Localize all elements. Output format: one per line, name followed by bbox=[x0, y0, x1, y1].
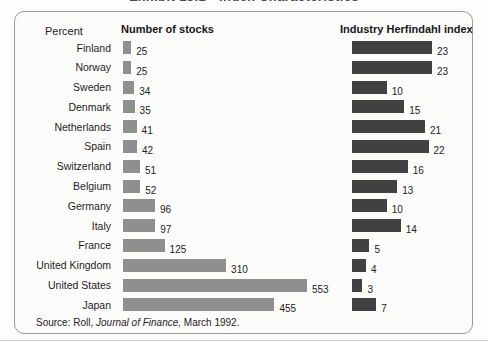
herfindahl-value: 3 bbox=[367, 284, 373, 295]
table-row: Denmark 35 15 bbox=[15, 97, 472, 117]
country-label: United States bbox=[15, 276, 111, 292]
herfindahl-bar bbox=[352, 160, 408, 173]
herfindahl-bar bbox=[352, 259, 366, 272]
stocks-value: 42 bbox=[142, 145, 153, 156]
stocks-value: 41 bbox=[142, 125, 153, 136]
country-label: Netherlands bbox=[15, 117, 111, 133]
herfindahl-bar-cell: 10 bbox=[340, 196, 403, 215]
stocks-bar-cell: 52 bbox=[111, 177, 340, 196]
herfindahl-bar-cell: 22 bbox=[340, 137, 445, 156]
stocks-value: 553 bbox=[312, 284, 329, 295]
herfindahl-bar bbox=[352, 180, 397, 193]
exhibit-title-text: Exhibit 13.1 • Index Characteristics bbox=[0, 0, 488, 4]
herfindahl-bar bbox=[352, 61, 432, 74]
table-row: United States 553 3 bbox=[15, 276, 472, 296]
source-note: Source: Roll, Journal of Finance, March … bbox=[36, 317, 239, 328]
source-prefix: Source: Roll, bbox=[36, 317, 96, 328]
herfindahl-value: 10 bbox=[392, 86, 403, 97]
country-label: Switzerland bbox=[15, 157, 111, 173]
herfindahl-bar bbox=[352, 298, 376, 311]
stocks-bar-cell: 41 bbox=[111, 117, 340, 136]
stocks-bar-cell: 125 bbox=[111, 236, 340, 255]
bar-chart-rows: Finland 25 23 Norway 25 23 Sweden 34 10 bbox=[15, 38, 472, 315]
herfindahl-bar-cell: 16 bbox=[340, 157, 424, 176]
stocks-value: 125 bbox=[170, 244, 187, 255]
country-label: United Kingdom bbox=[15, 256, 111, 272]
stocks-bar-cell: 25 bbox=[111, 58, 340, 77]
table-row: United Kingdom 310 4 bbox=[15, 256, 472, 276]
table-row: Belgium 52 13 bbox=[15, 177, 472, 197]
source-journal: Journal of Finance, bbox=[96, 317, 181, 328]
herfindahl-value: 16 bbox=[413, 165, 424, 176]
stocks-bar bbox=[123, 279, 307, 292]
country-label: Denmark bbox=[15, 97, 111, 113]
table-row: Japan 455 7 bbox=[15, 295, 472, 315]
stocks-bar bbox=[123, 160, 140, 173]
herfindahl-value: 4 bbox=[371, 264, 377, 275]
herfindahl-bar bbox=[352, 120, 425, 133]
herfindahl-bar-cell: 3 bbox=[340, 276, 373, 295]
stocks-bar bbox=[123, 61, 131, 74]
country-label: Norway bbox=[15, 58, 111, 74]
stocks-bar bbox=[123, 239, 165, 252]
stocks-bar bbox=[123, 120, 137, 133]
herfindahl-bar bbox=[352, 199, 387, 212]
stocks-bar bbox=[123, 140, 137, 153]
herfindahl-bar bbox=[352, 81, 387, 94]
stocks-bar-cell: 34 bbox=[111, 78, 340, 97]
country-label: Finland bbox=[15, 38, 111, 54]
herfindahl-value: 21 bbox=[430, 125, 441, 136]
stocks-value: 35 bbox=[140, 105, 151, 116]
table-row: Spain 42 22 bbox=[15, 137, 472, 157]
herfindahl-bar-cell: 5 bbox=[340, 236, 380, 255]
herfindahl-value: 5 bbox=[374, 244, 380, 255]
stocks-value: 51 bbox=[145, 165, 156, 176]
stocks-bar-cell: 455 bbox=[111, 295, 340, 314]
herfindahl-bar-cell: 15 bbox=[340, 97, 420, 116]
herfindahl-bar-cell: 7 bbox=[340, 295, 387, 314]
stocks-value: 310 bbox=[231, 264, 248, 275]
stocks-bar-cell: 51 bbox=[111, 157, 340, 176]
chart-panel: Percent Number of stocks Industry Herfin… bbox=[14, 11, 473, 334]
country-label: Germany bbox=[15, 196, 111, 212]
stocks-bar bbox=[123, 100, 135, 113]
table-row: France 125 5 bbox=[15, 236, 472, 256]
stocks-bar-cell: 97 bbox=[111, 216, 340, 235]
stocks-bar bbox=[123, 180, 140, 193]
stocks-value: 25 bbox=[136, 66, 147, 77]
country-label: Sweden bbox=[15, 78, 111, 94]
percent-axis-note: Percent bbox=[45, 25, 83, 37]
herfindahl-bar-cell: 23 bbox=[340, 58, 448, 77]
stocks-bar-cell: 553 bbox=[111, 276, 340, 295]
source-suffix: March 1992. bbox=[181, 317, 239, 328]
herfindahl-bar bbox=[352, 279, 362, 292]
stocks-value: 96 bbox=[160, 204, 171, 215]
country-label: France bbox=[15, 236, 111, 252]
table-row: Finland 25 23 bbox=[15, 38, 472, 58]
stocks-value: 34 bbox=[139, 86, 150, 97]
herfindahl-value: 23 bbox=[437, 46, 448, 57]
stocks-bar bbox=[123, 199, 155, 212]
herfindahl-bar bbox=[352, 140, 429, 153]
stocks-bar bbox=[123, 219, 155, 232]
stocks-bar-cell: 35 bbox=[111, 97, 340, 116]
table-row: Switzerland 51 16 bbox=[15, 157, 472, 177]
table-row: Norway 25 23 bbox=[15, 58, 472, 78]
herfindahl-bar-cell: 10 bbox=[340, 78, 403, 97]
stocks-bar bbox=[123, 259, 226, 272]
herfindahl-value: 23 bbox=[437, 66, 448, 77]
stocks-bar bbox=[123, 298, 274, 311]
stocks-value: 97 bbox=[160, 224, 171, 235]
herfindahl-value: 13 bbox=[402, 185, 413, 196]
country-label: Belgium bbox=[15, 177, 111, 193]
herfindahl-bar-cell: 13 bbox=[340, 177, 413, 196]
table-row: Italy 97 14 bbox=[15, 216, 472, 236]
herfindahl-bar-cell: 4 bbox=[340, 256, 376, 275]
stocks-value: 455 bbox=[279, 303, 296, 314]
herfindahl-value: 14 bbox=[406, 224, 417, 235]
herfindahl-column-header: Industry Herfindahl index bbox=[340, 23, 473, 35]
country-label: Japan bbox=[15, 295, 111, 311]
stocks-value: 52 bbox=[145, 185, 156, 196]
stocks-bar-cell: 310 bbox=[111, 256, 340, 275]
clipped-exhibit-title: Exhibit 13.1 • Index Characteristics bbox=[0, 0, 488, 6]
